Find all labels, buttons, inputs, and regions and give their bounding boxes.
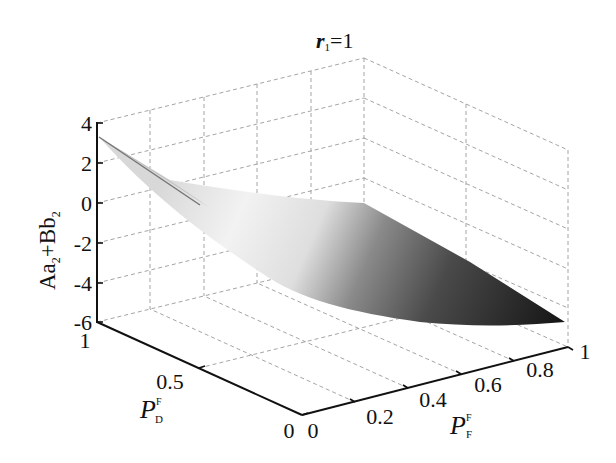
z-axis-label: Aa2+Bb2 (35, 211, 63, 290)
pf-tick-0.2: 0.2 (366, 404, 394, 429)
svg-text:P: P (449, 411, 466, 440)
surface (99, 137, 565, 325)
z-tick-neg2: -2 (74, 231, 92, 256)
pf-axis-label: P F F (449, 411, 472, 440)
pf-tick-labels: 0 0.2 0.4 0.6 0.8 1 (308, 339, 591, 443)
pf-tick-1: 1 (580, 339, 591, 364)
z-tick-2: 2 (81, 151, 92, 176)
svg-text:F: F (466, 412, 472, 423)
pf-tick-0.4: 0.4 (419, 387, 447, 412)
pd-tick-0: 0 (284, 418, 295, 443)
pd-axis-label: P F D (139, 395, 163, 425)
svg-text:D: D (155, 413, 163, 425)
surface-chart: 4 2 0 -2 -4 -6 1 0.5 0 0 0.2 0.4 0.6 0.8… (0, 0, 616, 463)
svg-text:F: F (156, 396, 162, 407)
pf-tick-0: 0 (308, 418, 319, 443)
pf-tick-0.6: 0.6 (474, 372, 502, 397)
svg-text:P: P (139, 395, 156, 424)
chart-title: r1=1 (316, 28, 353, 53)
pd-tick-0.5: 0.5 (156, 369, 184, 394)
z-tick-4: 4 (81, 111, 92, 136)
z-tick-labels: 4 2 0 -2 -4 -6 (74, 111, 92, 335)
z-tick-neg4: -4 (74, 271, 92, 296)
svg-text:F: F (466, 428, 472, 440)
pd-tick-1: 1 (80, 328, 91, 353)
z-tick-0: 0 (81, 191, 92, 216)
pf-tick-0.8: 0.8 (526, 357, 554, 382)
pd-tick-labels: 1 0.5 0 (80, 328, 295, 443)
